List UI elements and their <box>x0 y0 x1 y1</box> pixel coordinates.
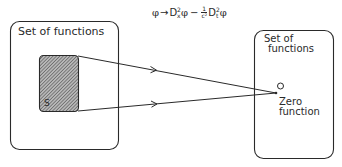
left-set-label: Set of functions <box>18 26 104 37</box>
zero-function-label-line2: function <box>279 107 320 117</box>
formula-fraction: 1 c² <box>201 6 207 19</box>
formula-phi: φ <box>152 7 159 18</box>
subset-s-label: S <box>44 99 50 108</box>
mapping-line-bottom <box>78 93 276 111</box>
formula-fraction-denominator: c² <box>201 13 207 19</box>
formula-phi-3: φ <box>220 7 227 18</box>
zero-function-circle-icon <box>278 83 284 89</box>
formula-arrow: → <box>160 7 168 18</box>
formula-d-x: D <box>169 7 177 18</box>
right-set-label-line2: functions <box>268 44 314 54</box>
formula-d-t: D <box>208 7 216 18</box>
formula-minus: − <box>190 7 198 18</box>
operator-formula: φ → D 2 x φ − 1 c² D 2 t φ <box>152 6 227 19</box>
mapping-line-top <box>78 56 276 93</box>
convergence-point <box>275 92 278 95</box>
formula-phi-2: φ <box>181 7 188 18</box>
operator-mapping-diagram: φ → D 2 x φ − 1 c² D 2 t φ Set of functi… <box>0 0 342 167</box>
